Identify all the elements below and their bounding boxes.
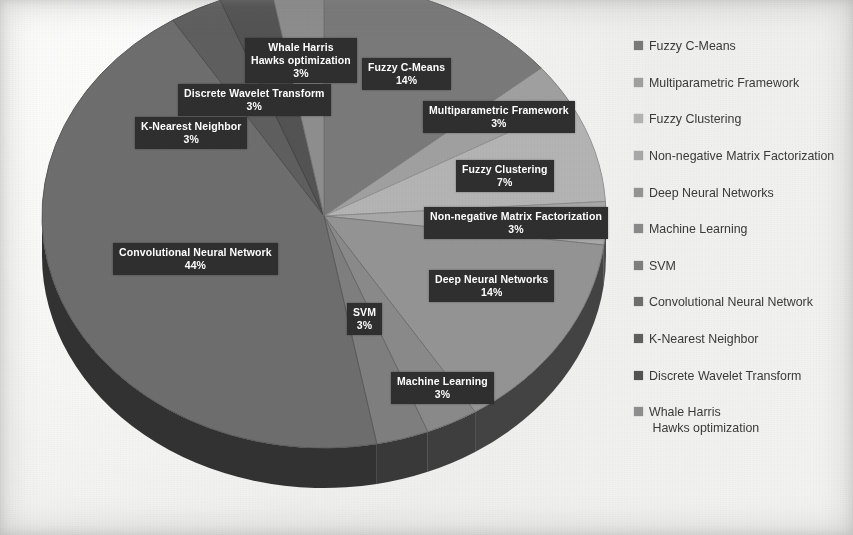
legend-item[interactable]: Multiparametric Framework bbox=[634, 75, 849, 91]
data-label-percent: 3% bbox=[430, 223, 602, 236]
legend-item[interactable]: Fuzzy Clustering bbox=[634, 111, 849, 127]
data-label-percent: 3% bbox=[141, 133, 241, 146]
data-label-text: Convolutional Neural Network bbox=[119, 246, 272, 258]
data-label-percent: 3% bbox=[429, 117, 569, 130]
data-label-multiparametric-framework: Multiparametric Framework 3% bbox=[423, 101, 575, 133]
data-label-text: Machine Learning bbox=[397, 375, 488, 387]
data-label-whale-harris: Whale Harris Hawks optimization 3% bbox=[245, 38, 357, 83]
legend-item[interactable]: Machine Learning bbox=[634, 221, 849, 237]
legend-item-label: K-Nearest Neighbor bbox=[649, 331, 759, 347]
data-label-percent: 3% bbox=[397, 388, 488, 401]
legend-swatch-icon bbox=[634, 371, 643, 380]
legend-item-label: Deep Neural Networks bbox=[649, 185, 774, 201]
legend-swatch-icon bbox=[634, 78, 643, 87]
data-label-fuzzy-c-means: Fuzzy C-Means 14% bbox=[362, 58, 451, 90]
legend-swatch-icon bbox=[634, 261, 643, 270]
data-label-fuzzy-clustering: Fuzzy Clustering 7% bbox=[456, 160, 554, 192]
data-label-text: Multiparametric Framework bbox=[429, 104, 569, 116]
legend-item[interactable]: SVM bbox=[634, 258, 849, 274]
data-label-machine-learning: Machine Learning 3% bbox=[391, 372, 494, 404]
data-label-non-negative-matrix-factorization: Non-negative Matrix Factorization 3% bbox=[424, 207, 608, 239]
legend-item[interactable]: Fuzzy C-Means bbox=[634, 38, 849, 54]
legend-item-label: Non-negative Matrix Factorization bbox=[649, 148, 834, 164]
data-label-percent: 14% bbox=[368, 74, 445, 87]
legend-item[interactable]: Non-negative Matrix Factorization bbox=[634, 148, 849, 164]
legend-item[interactable]: Whale Harris Hawks optimization bbox=[634, 404, 849, 436]
data-label-text-2: Hawks optimization bbox=[251, 54, 351, 66]
legend-item[interactable]: Deep Neural Networks bbox=[634, 185, 849, 201]
legend-item-label: Convolutional Neural Network bbox=[649, 294, 813, 310]
data-label-percent: 3% bbox=[251, 67, 351, 80]
legend-item-label: Fuzzy C-Means bbox=[649, 38, 736, 54]
legend-item[interactable]: Convolutional Neural Network bbox=[634, 294, 849, 310]
legend-item-label: Fuzzy Clustering bbox=[649, 111, 741, 127]
data-label-text: Deep Neural Networks bbox=[435, 273, 548, 285]
data-label-deep-neural-networks: Deep Neural Networks 14% bbox=[429, 270, 554, 302]
data-label-percent: 7% bbox=[462, 176, 548, 189]
data-label-text: Fuzzy Clustering bbox=[462, 163, 548, 175]
legend-item-label: Discrete Wavelet Transform bbox=[649, 368, 801, 384]
data-label-percent: 14% bbox=[435, 286, 548, 299]
legend-swatch-icon bbox=[634, 297, 643, 306]
data-label-percent: 3% bbox=[353, 319, 376, 332]
data-label-k-nearest-neighbor: K-Nearest Neighbor 3% bbox=[135, 117, 247, 149]
data-label-convolutional-neural-network: Convolutional Neural Network 44% bbox=[113, 243, 278, 275]
legend-swatch-icon bbox=[634, 188, 643, 197]
data-label-text: K-Nearest Neighbor bbox=[141, 120, 241, 132]
data-label-text: Whale Harris bbox=[268, 41, 333, 53]
legend-item[interactable]: Discrete Wavelet Transform bbox=[634, 368, 849, 384]
legend-item[interactable]: K-Nearest Neighbor bbox=[634, 331, 849, 347]
legend-swatch-icon bbox=[634, 224, 643, 233]
data-label-svm: SVM 3% bbox=[347, 303, 382, 335]
chart-legend: Fuzzy C-MeansMultiparametric FrameworkFu… bbox=[634, 38, 849, 508]
data-label-discrete-wavelet-transform: Discrete Wavelet Transform 3% bbox=[178, 84, 331, 116]
data-label-text: Non-negative Matrix Factorization bbox=[430, 210, 602, 222]
legend-item-label: Multiparametric Framework bbox=[649, 75, 799, 91]
chart-canvas: Fuzzy C-Means 14%Multiparametric Framewo… bbox=[0, 0, 853, 535]
pie-chart: Fuzzy C-Means 14%Multiparametric Framewo… bbox=[0, 0, 640, 535]
data-label-text: Fuzzy C-Means bbox=[368, 61, 445, 73]
legend-swatch-icon bbox=[634, 407, 643, 416]
legend-swatch-icon bbox=[634, 151, 643, 160]
legend-swatch-icon bbox=[634, 114, 643, 123]
legend-item-label: Machine Learning bbox=[649, 221, 748, 237]
legend-item-label: SVM bbox=[649, 258, 676, 274]
data-label-percent: 44% bbox=[119, 259, 272, 272]
data-label-text: Discrete Wavelet Transform bbox=[184, 87, 325, 99]
legend-item-label: Whale Harris Hawks optimization bbox=[649, 404, 759, 436]
legend-swatch-icon bbox=[634, 41, 643, 50]
legend-swatch-icon bbox=[634, 334, 643, 343]
data-label-text: SVM bbox=[353, 306, 376, 318]
data-label-percent: 3% bbox=[184, 100, 325, 113]
